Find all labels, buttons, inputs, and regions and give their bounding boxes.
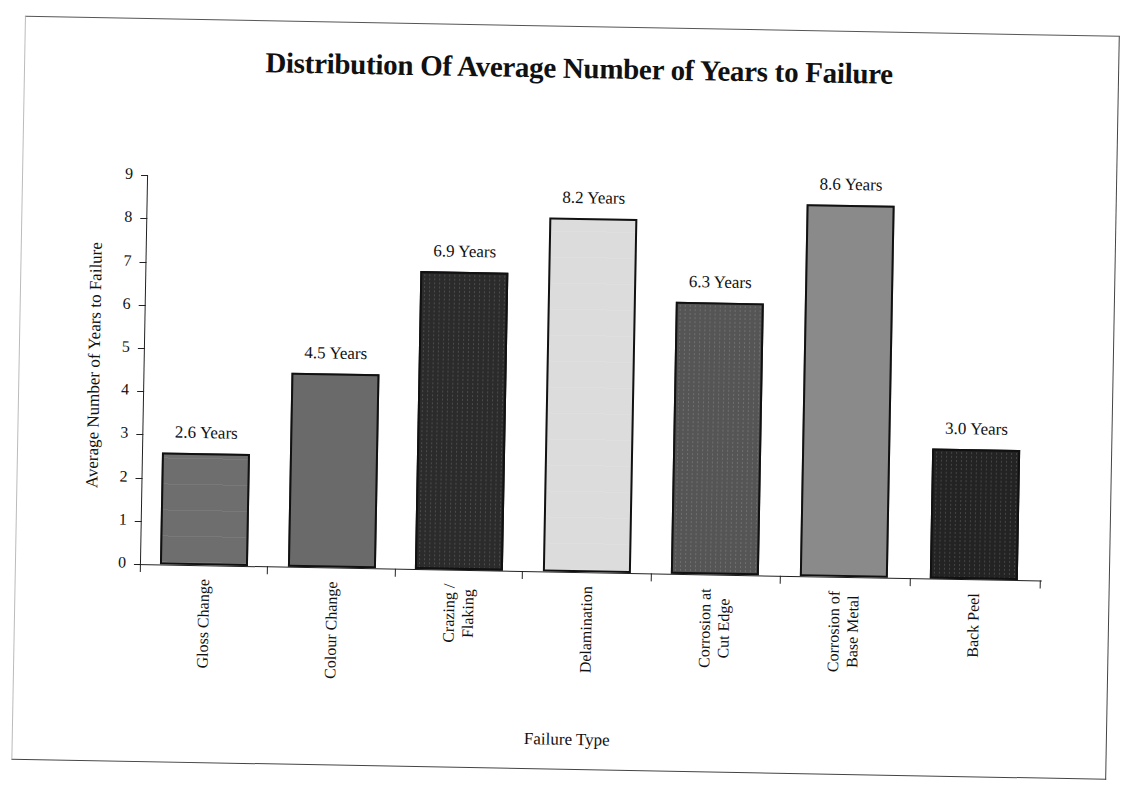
x-axis-label: Failure Type: [467, 728, 667, 752]
bar-value-label: 4.5 Years: [266, 342, 406, 365]
y-tick-label: 5: [114, 337, 130, 355]
y-tick: [141, 175, 148, 176]
y-tick-label: 0: [110, 553, 126, 571]
x-tick: [910, 578, 911, 586]
category-labels: Gloss ChangeColour ChangeCrazing /Flakin…: [10, 0, 1125, 18]
bar: [543, 217, 637, 573]
y-tick: [139, 305, 146, 306]
y-tick-label: 7: [115, 251, 131, 269]
y-tick: [138, 348, 145, 349]
category-label: Gloss Change: [186, 579, 218, 710]
bar-value-label: 6.9 Years: [395, 241, 535, 264]
y-tick-label: 3: [112, 424, 128, 442]
bar: [160, 452, 250, 566]
category-label: Corrosion ofBase Metal: [826, 591, 858, 722]
bar: [930, 449, 1020, 580]
y-axis-ticks: 0123456789: [10, 0, 1125, 18]
category-label: Corrosion atCut Edge: [697, 588, 729, 719]
category-label: Crazing /Flaking: [441, 584, 473, 715]
x-tick: [780, 576, 781, 584]
x-tick: [651, 573, 652, 581]
y-tick: [136, 477, 143, 478]
x-tick: [140, 564, 141, 572]
y-tick-label: 2: [111, 467, 127, 485]
bar: [415, 271, 508, 571]
y-tick: [140, 218, 147, 219]
bar-value-label: 3.0 Years: [906, 418, 1046, 441]
y-tick: [139, 262, 146, 263]
x-tick: [522, 571, 523, 579]
bar: [671, 302, 764, 576]
y-tick: [135, 521, 142, 522]
bar-value-label: 8.2 Years: [524, 187, 664, 210]
x-tick: [267, 566, 268, 574]
y-tick-label: 4: [113, 381, 129, 399]
category-label: Delamination: [569, 586, 601, 717]
bar: [288, 372, 380, 568]
y-tick-label: 6: [115, 294, 131, 312]
x-tick: [1040, 580, 1041, 588]
y-tick-label: 8: [116, 208, 132, 226]
y-tick: [137, 391, 144, 392]
x-tick: [395, 569, 396, 577]
bar-value-label: 6.3 Years: [650, 271, 790, 294]
x-axis-ticks: [10, 0, 1125, 18]
bar-value-label: 8.6 Years: [781, 174, 921, 197]
y-tick-label: 9: [117, 165, 133, 183]
category-label: Colour Change: [314, 581, 346, 712]
bar-value-label: 2.6 Years: [136, 422, 276, 445]
bar: [800, 205, 895, 578]
chart-page: Distribution Of Average Number of Years …: [0, 0, 1125, 788]
bars-layer: 2.6 Years4.5 Years6.9 Years8.2 Years6.3 …: [10, 0, 1125, 18]
y-tick-label: 1: [111, 510, 127, 528]
category-label: Back Peel: [956, 593, 988, 724]
